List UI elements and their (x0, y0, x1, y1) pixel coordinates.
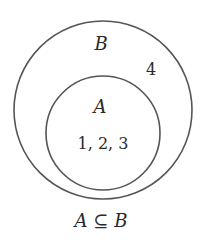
set-a-elements: 1, 2, 3 (78, 134, 129, 153)
set-a-label: A (94, 96, 107, 117)
venn-diagram: B 4 A 1, 2, 3 A ⊆ B (0, 0, 204, 241)
subset-caption: A ⊆ B (75, 210, 128, 231)
set-b-elements: 4 (146, 60, 156, 79)
caption-right-set: B (114, 210, 127, 231)
caption-left-set: A (75, 210, 88, 231)
subset-symbol: ⊆ (93, 210, 108, 231)
set-b-label: B (94, 33, 107, 54)
